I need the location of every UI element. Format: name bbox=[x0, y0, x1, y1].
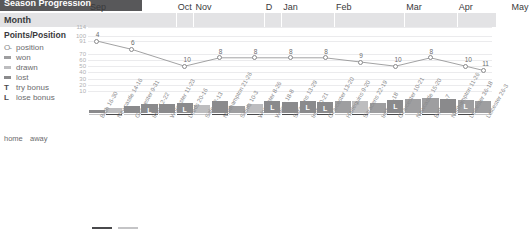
month-cell: D bbox=[266, 2, 273, 12]
home-key-swatch bbox=[92, 227, 112, 229]
position-point-label: 6 bbox=[131, 39, 135, 46]
month-header-band: Month bbox=[0, 13, 496, 27]
x-axis-labels: Bath 16-30Newcastle 14-16Gloucester 9-31… bbox=[88, 116, 492, 163]
legend-title: Points/Position bbox=[4, 30, 78, 40]
y-tick-label: 10 bbox=[79, 88, 86, 94]
month-cell: Oct bbox=[178, 2, 192, 12]
lost-swatch bbox=[4, 76, 11, 79]
y-tick-label: 70 bbox=[79, 51, 86, 57]
won-swatch bbox=[4, 56, 11, 59]
position-point-label: 11 bbox=[482, 60, 489, 67]
month-separator bbox=[334, 13, 335, 27]
legend-item-lost: lost bbox=[4, 72, 78, 82]
chart-legend: Points/Position O-positionwondrawnlostTt… bbox=[4, 30, 78, 102]
y-tick-label: 30 bbox=[79, 76, 86, 82]
legend-item-label: lose bonus bbox=[16, 93, 55, 102]
month-cell: May bbox=[512, 2, 529, 12]
position-point bbox=[288, 55, 293, 60]
position-point bbox=[358, 60, 363, 65]
month-separator bbox=[457, 13, 458, 27]
legend-item-drawn: drawn bbox=[4, 62, 78, 72]
position-point-label: 8 bbox=[430, 48, 434, 55]
position-point bbox=[481, 68, 486, 73]
position-point-label: 8 bbox=[324, 48, 328, 55]
legend-item-won: won bbox=[4, 52, 78, 62]
position-point-label: 8 bbox=[219, 48, 223, 55]
y-tick-label: 50 bbox=[79, 63, 86, 69]
legend-item-label: drawn bbox=[16, 63, 38, 72]
position-point-label: 10 bbox=[184, 56, 191, 63]
legend-item-lose-bonus: Llose bonus bbox=[4, 92, 78, 102]
y-tick-label: 60 bbox=[79, 57, 86, 63]
month-separator bbox=[510, 13, 511, 27]
month-separator bbox=[264, 13, 265, 27]
legend-item-try-bonus: Ttry bonus bbox=[4, 82, 78, 92]
page-title: Season Progression bbox=[4, 0, 91, 8]
legend-item-label: try bonus bbox=[16, 83, 49, 92]
position-point bbox=[323, 55, 328, 60]
y-tick-label: 20 bbox=[79, 82, 86, 88]
position-point-label: 8 bbox=[289, 48, 293, 55]
position-point-label: 9 bbox=[359, 52, 363, 59]
legend-item-label: position bbox=[16, 43, 44, 52]
month-separator bbox=[281, 13, 282, 27]
month-cell: Nov bbox=[195, 2, 211, 12]
month-cell: Feb bbox=[336, 2, 352, 12]
month-separator bbox=[404, 13, 405, 27]
position-point-label: 4 bbox=[96, 31, 100, 38]
title-bar: Season Progression bbox=[0, 0, 142, 11]
position-point bbox=[393, 64, 398, 69]
month-separator bbox=[193, 13, 194, 27]
home-away-key: home away bbox=[4, 128, 78, 144]
away-key-swatch bbox=[118, 227, 138, 229]
position-point-label: 10 bbox=[465, 56, 472, 63]
y-tick-label: 40 bbox=[79, 69, 86, 75]
y-tick-label: 91 bbox=[79, 38, 86, 44]
position-point-label: 10 bbox=[394, 56, 401, 63]
legend-item-label: lost bbox=[16, 73, 28, 82]
position-point bbox=[463, 64, 468, 69]
month-cell: Sep bbox=[90, 2, 106, 12]
month-cell: Apr bbox=[459, 2, 473, 12]
home-key-label: home bbox=[4, 134, 23, 143]
legend-item-label: won bbox=[16, 53, 31, 62]
drawn-swatch bbox=[4, 66, 11, 69]
month-row-label: Month bbox=[4, 15, 31, 25]
y-axis: 1141009170605040302010 bbox=[70, 27, 86, 97]
legend-item-position: O-position bbox=[4, 42, 78, 52]
away-key-label: away bbox=[30, 134, 48, 143]
position-point bbox=[94, 39, 99, 44]
month-cell: Jan bbox=[283, 2, 298, 12]
month-cell: Mar bbox=[406, 2, 422, 12]
month-separator bbox=[176, 13, 177, 27]
lose-bonus-icon: L bbox=[4, 93, 16, 103]
y-tick-label: 114 bbox=[76, 24, 86, 30]
position-point bbox=[182, 64, 187, 69]
position-point-label: 8 bbox=[254, 48, 258, 55]
